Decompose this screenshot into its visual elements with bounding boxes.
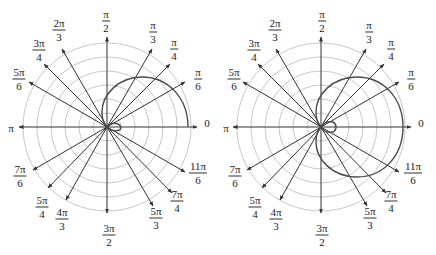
angle-label-3pi-4: 3π4 (32, 38, 45, 63)
angle-label-11pi-6: 11π6 (404, 161, 422, 186)
angle-label-3pi-2: 3π2 (315, 223, 328, 248)
angle-label-pi-6: π6 (407, 67, 415, 92)
angle-label-7pi-4: 7π4 (170, 189, 183, 214)
angle-label-3pi-2: 3π2 (102, 223, 115, 248)
angle-label-4pi-3: 4π3 (55, 207, 68, 232)
angle-label-5pi-3: 5π3 (149, 206, 162, 231)
polar-plot-right: 0 π6 π4 π3 π2 2π3 3π4 5π6 π 7π6 5π4 4π3 … (218, 0, 436, 255)
angle-label-4pi-3: 4π3 (269, 207, 282, 232)
angle-label-7pi-4: 7π4 (384, 189, 397, 214)
angle-label-pi-6: π6 (194, 67, 202, 92)
angle-label-11pi-6: 11π6 (189, 161, 207, 186)
angle-label-0: 0 (204, 118, 210, 129)
angle-label-2pi-3: 2π3 (52, 18, 65, 43)
angle-label-pi-3: π3 (365, 20, 373, 45)
angle-label-7pi-6: 7π6 (13, 164, 26, 189)
polar-curve-left (102, 77, 188, 131)
angle-label-pi-4: π4 (387, 37, 395, 62)
angle-label-pi-2: π2 (318, 9, 326, 34)
angle-label-pi-3: π3 (149, 20, 157, 45)
angle-label-pi-4: π4 (170, 37, 178, 62)
angle-label-5pi-4: 5π4 (248, 195, 261, 220)
angle-label-5pi-3: 5π3 (363, 206, 376, 231)
angle-label-5pi-6: 5π6 (227, 67, 240, 92)
angle-label-pi-2: π2 (102, 9, 110, 34)
polar-plot-left: 0 π6 π4 π3 π2 2π3 3π4 5π6 π 7π6 5π4 4π3 … (0, 0, 218, 255)
angle-label-3pi-4: 3π4 (247, 38, 260, 63)
angle-label-5pi-6: 5π6 (12, 67, 25, 92)
angle-label-pi: π (8, 123, 14, 134)
angle-label-0: 0 (418, 118, 424, 129)
angle-label-2pi-3: 2π3 (268, 18, 281, 43)
angle-label-5pi-4: 5π4 (35, 195, 48, 220)
angle-label-7pi-6: 7π6 (228, 164, 241, 189)
angle-label-pi: π (223, 123, 229, 134)
